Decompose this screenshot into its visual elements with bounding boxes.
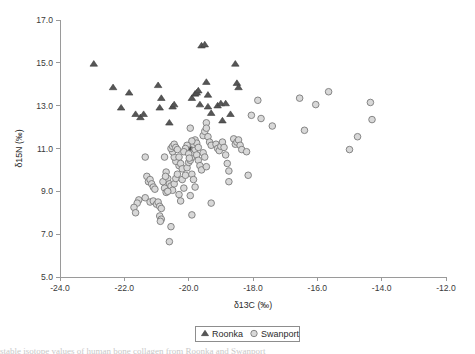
data-point	[232, 61, 240, 67]
data-point	[346, 146, 353, 153]
data-point	[296, 95, 303, 102]
data-point	[182, 172, 189, 179]
data-point	[196, 101, 204, 107]
data-point	[269, 123, 276, 130]
y-tick-label-2: 9.0	[41, 186, 53, 196]
data-point	[152, 186, 159, 193]
x-tick-label-4: -16.0	[308, 283, 328, 293]
data-point	[176, 191, 183, 198]
data-point	[203, 163, 210, 170]
y-tick-label-0: 5.0	[41, 272, 53, 282]
data-point	[312, 101, 319, 108]
data-point	[369, 116, 376, 123]
x-axis-title: δ13C (‰)	[234, 300, 272, 310]
data-point	[170, 101, 178, 107]
data-point	[186, 155, 193, 162]
x-tick-label-1: -22.0	[115, 283, 135, 293]
data-point	[354, 133, 361, 140]
series-roonka	[90, 41, 242, 153]
y-tick-label-1: 7.0	[41, 229, 53, 239]
data-point	[208, 200, 215, 207]
data-point	[162, 173, 169, 180]
data-point	[207, 110, 215, 116]
data-point	[201, 154, 208, 161]
y-axis-title: δ15N (‰)	[14, 129, 24, 167]
data-point	[367, 99, 374, 106]
legend-label-swanport: Swanport	[261, 329, 300, 339]
data-point	[203, 125, 210, 132]
data-point	[164, 188, 171, 195]
data-point	[222, 152, 229, 159]
data-point	[190, 176, 197, 183]
data-point	[168, 223, 175, 230]
legend-marker-circle	[251, 330, 257, 336]
data-point	[221, 144, 228, 151]
x-tick-label-3: -18.0	[243, 283, 263, 293]
data-point	[204, 92, 212, 98]
data-point	[109, 84, 117, 90]
data-point	[125, 89, 133, 95]
data-point	[166, 238, 173, 245]
data-point	[176, 154, 183, 161]
data-point	[301, 127, 308, 134]
data-point	[174, 146, 181, 153]
x-tick-label-5: -14.0	[372, 283, 392, 293]
data-point	[224, 160, 231, 167]
data-point	[203, 79, 211, 85]
data-point	[177, 198, 184, 205]
figure-caption: stable isotope values of human bone coll…	[0, 347, 475, 354]
data-point	[187, 192, 194, 199]
x-tick-label-2: -20.0	[179, 283, 199, 293]
data-point	[157, 218, 164, 225]
legend-label-roonka: Roonka	[212, 329, 243, 339]
data-point	[156, 104, 164, 110]
data-point	[325, 88, 332, 95]
data-point	[140, 111, 148, 117]
data-point	[255, 97, 262, 104]
data-point	[181, 185, 188, 192]
data-point	[154, 82, 162, 88]
y-tick-label-5: 15.0	[36, 58, 53, 68]
data-point	[192, 184, 199, 191]
data-point	[189, 212, 196, 219]
data-point	[90, 61, 98, 67]
data-point	[227, 111, 235, 117]
data-point	[243, 148, 250, 155]
scatter-plot: 5.07.09.011.013.015.017.0-24.0-22.0-20.0…	[0, 0, 475, 354]
data-point	[204, 103, 212, 109]
data-point	[248, 112, 255, 119]
data-point	[226, 168, 233, 175]
data-point	[132, 111, 140, 117]
data-point	[233, 80, 241, 86]
data-point	[166, 119, 174, 125]
y-tick-label-6: 17.0	[36, 15, 53, 25]
data-point	[195, 87, 203, 93]
x-tick-label-6: -12.0	[436, 283, 456, 293]
y-tick-label-4: 13.0	[36, 101, 53, 111]
figure-container: 5.07.09.011.013.015.017.0-24.0-22.0-20.0…	[0, 0, 475, 354]
data-point	[161, 154, 168, 161]
series-swanport	[131, 88, 376, 245]
data-point	[132, 209, 139, 216]
data-point	[226, 178, 233, 185]
data-point	[158, 205, 165, 212]
data-point	[195, 144, 202, 151]
data-point	[142, 154, 149, 161]
data-point	[245, 172, 252, 179]
x-tick-label-0: -24.0	[50, 283, 70, 293]
data-point	[187, 125, 194, 132]
y-tick-label-3: 11.0	[37, 144, 53, 154]
data-point	[158, 95, 166, 101]
data-point	[258, 115, 265, 122]
data-point	[117, 104, 125, 110]
data-point	[174, 171, 181, 178]
data-point	[219, 117, 227, 123]
